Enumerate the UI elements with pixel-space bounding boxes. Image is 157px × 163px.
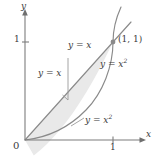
y-axis-label: y <box>21 2 26 11</box>
point-coordinate-label: (1, 1) <box>118 35 142 44</box>
annotation-parabola-bottom-exponent: 2 <box>108 113 112 120</box>
annotation-parabola-right-text: y = x <box>100 59 123 69</box>
annotation-parabola-bottom: y = x2 <box>85 114 112 125</box>
math-figure-area-between-curves: y x 1 1 0 (1, 1) y = x y = x y = x2 y = … <box>0 0 157 163</box>
annotation-line-mid: y = x <box>38 69 61 78</box>
origin-label: 0 <box>13 141 19 151</box>
plot-canvas <box>0 0 157 163</box>
annotation-parabola-right: y = x2 <box>100 58 127 69</box>
annotation-line-top-text: y = x <box>68 40 91 50</box>
annotation-line-top: y = x <box>68 41 91 50</box>
marked-point-1-1 <box>111 40 116 45</box>
x-axis-tick-label-1: 1 <box>110 143 116 152</box>
annotation-line-mid-text: y = x <box>38 68 61 78</box>
y-axis-tick-label-1: 1 <box>14 35 20 44</box>
annotation-parabola-bottom-text: y = x <box>85 115 108 125</box>
x-axis-label: x <box>146 130 151 139</box>
annotation-parabola-right-exponent: 2 <box>123 57 127 64</box>
